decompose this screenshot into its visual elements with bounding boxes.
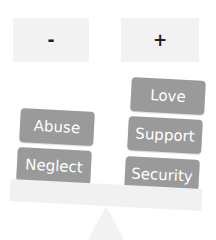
block-abuse: Abuse [19,108,95,146]
negative-sign-box: - [13,18,89,62]
block-label: Abuse [33,117,80,137]
block-label: Neglect [25,156,83,177]
block-label: Love [150,86,186,106]
block-label: Support [135,124,195,145]
positive-sign-box: + [121,18,199,62]
positive-sign-label: + [153,30,167,50]
block-label: Security [131,164,193,185]
block-love: Love [130,77,206,115]
scale-fulcrum [88,206,124,240]
block-support: Support [127,116,203,154]
negative-sign-label: - [47,30,54,50]
